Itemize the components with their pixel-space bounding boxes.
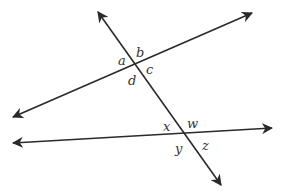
angle-label-z: z	[201, 138, 209, 153]
angle-label-b: b	[136, 45, 144, 60]
transversal-line	[98, 12, 221, 185]
angle-label-c: c	[146, 62, 154, 77]
angle-label-w: w	[187, 116, 198, 131]
angle-label-a: a	[118, 53, 126, 68]
angle-label-y: y	[174, 141, 183, 156]
angle-label-d: d	[128, 73, 136, 88]
lower-line	[13, 128, 272, 143]
angle-label-x: x	[163, 119, 171, 134]
transversal-diagram: a b c d x w y z	[0, 0, 285, 194]
upper-line	[13, 13, 252, 117]
